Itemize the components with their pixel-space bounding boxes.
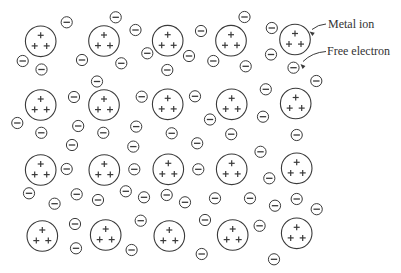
free-electron (136, 91, 147, 102)
free-electron (128, 141, 139, 152)
plus-charge-icon (228, 32, 234, 38)
free-electron (135, 215, 146, 226)
plus-charge-icon (294, 224, 300, 230)
free-electron (226, 129, 237, 140)
plus-charge-icon (292, 31, 298, 37)
ion-circle (154, 221, 185, 252)
free-electron (260, 84, 271, 95)
free-electron (264, 173, 275, 184)
free-electron (142, 48, 153, 59)
plus-charge-icon (95, 43, 101, 49)
plus-charge-icon (95, 172, 101, 178)
free-electron (311, 75, 322, 86)
plus-charge-icon (32, 172, 38, 178)
plus-charge-icon (235, 106, 241, 112)
free-electron (130, 24, 141, 35)
metal-ion (280, 88, 311, 119)
plus-charge-icon (222, 42, 228, 48)
plus-charge-icon (32, 43, 38, 49)
plus-charge-icon (165, 95, 171, 101)
arrowhead-icon (301, 64, 306, 69)
plus-charge-icon (103, 226, 109, 232)
metal-ion (152, 25, 183, 56)
free-electron (244, 193, 255, 204)
metal-ion (25, 90, 56, 121)
free-electron (71, 189, 82, 200)
ion-circle (153, 154, 184, 185)
free-electron (204, 114, 215, 125)
free-electron (266, 22, 277, 33)
plus-charge-icon (224, 237, 230, 243)
plus-charge-icon (171, 171, 177, 177)
metal-ion (90, 220, 121, 251)
free-electron (98, 127, 109, 138)
plus-charge-icon (101, 32, 107, 38)
free-electron (257, 111, 268, 122)
metal-ion (25, 26, 56, 57)
metal-ion (152, 89, 183, 120)
ion-circle (281, 153, 312, 184)
free-electron (110, 12, 121, 23)
plus-charge-icon (38, 161, 44, 167)
ion-circle (280, 88, 311, 119)
plus-charge-icon (234, 42, 240, 48)
metal-ion (280, 24, 311, 55)
free-electron (68, 91, 79, 102)
plus-charge-icon (299, 105, 305, 111)
free-electron (209, 193, 220, 204)
metal-ion-leader (310, 24, 327, 36)
free-electron (192, 138, 203, 149)
ion-circle (216, 154, 247, 185)
plus-charge-icon (107, 107, 113, 113)
ion-circle (216, 25, 247, 56)
plus-charge-icon (107, 43, 113, 49)
plus-charge-icon (159, 42, 165, 48)
free-electron (255, 146, 266, 157)
free-electron (70, 243, 81, 254)
metal-ion (25, 155, 56, 186)
metal-ion-label: Metal ion (328, 17, 374, 31)
metal-ion (89, 26, 120, 57)
free-electron (66, 139, 77, 150)
free-electron-leader (301, 52, 327, 69)
metal-ion (281, 153, 312, 184)
plus-charge-icon (97, 237, 103, 243)
plus-charge-icon (171, 42, 177, 48)
plus-charge-icon (236, 237, 242, 243)
plus-charge-icon (159, 106, 165, 112)
free-electron (116, 58, 127, 69)
free-electron (12, 117, 23, 128)
metallic-bonding-diagram: Metal ion Free electron (0, 0, 401, 273)
ion-circle (89, 26, 120, 57)
free-electron (239, 11, 250, 22)
leader-arrows-group (301, 24, 327, 69)
plus-charge-icon (33, 238, 39, 244)
plus-charge-icon (101, 161, 107, 167)
free-electron (265, 49, 276, 60)
free-electron (179, 197, 190, 208)
plus-charge-icon (223, 106, 229, 112)
plus-charge-icon (160, 238, 166, 244)
free-electron (61, 163, 72, 174)
plus-charge-icon (166, 227, 172, 233)
ion-circle (89, 90, 120, 121)
plus-charge-icon (101, 96, 107, 102)
plus-charge-icon (286, 41, 292, 47)
ion-circle (280, 24, 311, 55)
metal-ion (153, 154, 184, 185)
plus-charge-icon (32, 107, 38, 113)
plus-charge-icon (294, 159, 300, 165)
free-electron (193, 164, 204, 175)
metal-ion (216, 154, 247, 185)
ion-circle (25, 26, 56, 57)
plus-charge-icon (165, 160, 171, 166)
free-electron (36, 64, 47, 75)
leader-line (303, 52, 326, 62)
free-electron (196, 248, 207, 259)
plus-charge-icon (165, 32, 171, 38)
free-electron (240, 61, 251, 72)
free-electron (311, 204, 322, 215)
ion-circle (216, 89, 247, 120)
ion-circle (27, 221, 58, 252)
plus-charge-icon (44, 43, 50, 49)
